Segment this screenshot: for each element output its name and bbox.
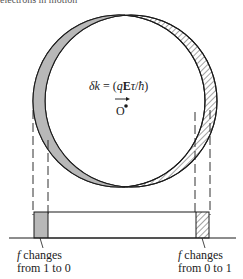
origin-label: O [116,104,125,119]
distribution-box [34,212,209,238]
hatched-region [45,15,217,187]
right-hatched-bar [196,212,209,238]
close-paren: ) [144,79,148,93]
equals-sign: = [100,79,113,93]
left-label: f changes from 1 to 0 [17,249,71,275]
leader-right [202,238,205,248]
fermi-sphere-diagram [0,0,243,279]
right-label: f changes from 0 to 1 [178,249,232,275]
right-label-line1: changes [181,248,223,262]
left-shaded-bar [34,212,48,238]
delta-k-equation: δk = (qEτ/ħ) [89,79,148,94]
left-label-line1: changes [20,248,62,262]
right-label-line2: from 0 to 1 [178,261,232,275]
delta-k-symbol: δk [89,79,100,93]
left-label-line2: from 1 to 0 [17,261,71,275]
leader-left [40,238,43,248]
field-E: E [123,79,131,93]
